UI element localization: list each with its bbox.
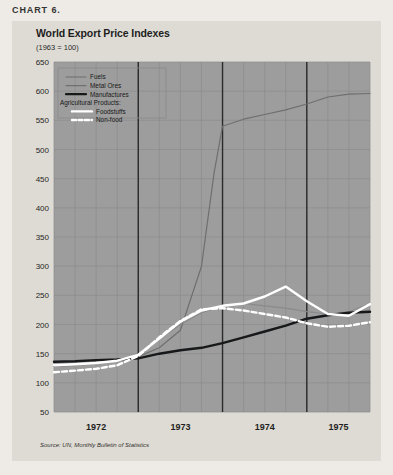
legend-label-non-food: Non-food xyxy=(96,116,123,123)
y-axis-tick-label: 250 xyxy=(36,291,50,300)
y-axis-tick-label: 600 xyxy=(36,87,50,96)
x-axis-tick-label: 1975 xyxy=(328,422,348,432)
y-axis-tick-label: 550 xyxy=(36,116,50,125)
y-axis-tick-label: 100 xyxy=(36,379,50,388)
x-axis-tick-label: 1973 xyxy=(170,422,190,432)
chart-number-label: CHART 6. xyxy=(12,5,61,15)
y-axis-tick-label: 150 xyxy=(36,350,50,359)
legend-label-fuels: Fuels xyxy=(90,73,106,80)
y-axis-tick-label: 350 xyxy=(36,233,50,242)
y-axis-tick-label: 500 xyxy=(36,146,50,155)
y-axis-tick-label: 200 xyxy=(36,321,50,330)
y-axis-tick-label: 300 xyxy=(36,262,50,271)
y-axis-tick-label: 650 xyxy=(36,58,50,67)
y-axis-tick-label: 450 xyxy=(36,175,50,184)
x-axis-tick-label: 1974 xyxy=(255,422,275,432)
chart-figure: World Export Price Indexes (1963 = 100) … xyxy=(12,21,381,461)
legend-group-label: Agricultural Products: xyxy=(60,99,121,107)
legend-label-metal-ores: Metal Ores xyxy=(90,82,121,89)
y-axis-tick-label: 400 xyxy=(36,204,50,213)
source-note: Source: UN, Monthly Bulletin of Statisti… xyxy=(40,442,149,448)
y-axis-tick-label: 50 xyxy=(40,408,49,417)
legend-label-foodstuffs: Foodstuffs xyxy=(96,108,126,115)
x-axis-tick-label: 1972 xyxy=(86,422,106,432)
line-chart-plot: 6506005505004504003503002502001501005019… xyxy=(12,21,381,461)
legend-label-manufactures: Manufactures xyxy=(90,91,129,98)
